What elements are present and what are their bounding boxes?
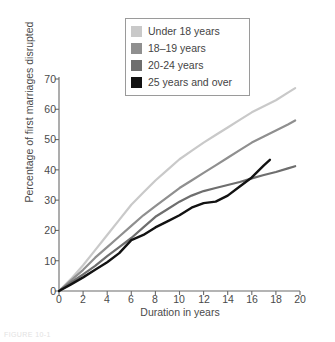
x-tick-label: 2 bbox=[72, 293, 94, 305]
x-tick-label: 6 bbox=[120, 293, 142, 305]
x-axis-title: Duration in years bbox=[59, 306, 301, 318]
legend: Under 18 years 18–19 years 20-24 years 2… bbox=[125, 18, 250, 96]
legend-swatch-icon bbox=[131, 60, 142, 71]
series-line bbox=[59, 166, 295, 291]
x-tick-label: 16 bbox=[241, 293, 263, 305]
y-tick-label: 70 bbox=[30, 73, 56, 85]
x-tick-label: 12 bbox=[193, 293, 215, 305]
y-tick-label: 20 bbox=[30, 224, 56, 236]
legend-item-18-19[interactable]: 18–19 years bbox=[131, 40, 244, 56]
legend-item-under-18[interactable]: Under 18 years bbox=[131, 23, 244, 39]
y-tick-label: 10 bbox=[30, 255, 56, 267]
y-tick-label: 30 bbox=[30, 194, 56, 206]
legend-swatch-icon bbox=[131, 43, 142, 54]
x-tick-label: 20 bbox=[289, 293, 311, 305]
legend-item-25-over[interactable]: 25 years and over bbox=[131, 74, 244, 90]
legend-swatch-icon bbox=[131, 77, 142, 88]
figure-caption: FIGURE 10-1 bbox=[4, 331, 51, 338]
line-chart: Percentage of first marriages disrupted … bbox=[0, 0, 335, 342]
legend-item-label: 20-24 years bbox=[148, 60, 203, 71]
y-tick-label: 50 bbox=[30, 133, 56, 145]
x-tick-label: 4 bbox=[96, 293, 118, 305]
x-tick-label: 18 bbox=[265, 293, 287, 305]
legend-item-label: 25 years and over bbox=[148, 77, 232, 88]
x-tick-label: 0 bbox=[48, 293, 70, 305]
x-tick-label: 8 bbox=[144, 293, 166, 305]
y-tick-label: 60 bbox=[30, 103, 56, 115]
series-line bbox=[59, 160, 270, 291]
x-tick-label: 10 bbox=[168, 293, 190, 305]
y-tick-label: 40 bbox=[30, 164, 56, 176]
legend-item-20-24[interactable]: 20-24 years bbox=[131, 57, 244, 73]
legend-swatch-icon bbox=[131, 26, 142, 37]
legend-item-label: Under 18 years bbox=[148, 26, 220, 37]
x-tick-label: 14 bbox=[217, 293, 239, 305]
legend-item-label: 18–19 years bbox=[148, 43, 206, 54]
